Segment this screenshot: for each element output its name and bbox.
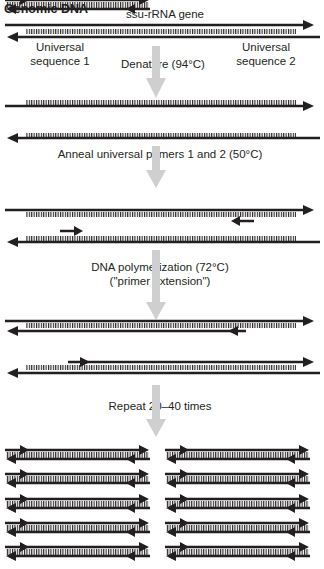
genomic-dna: [5, 20, 320, 42]
denatured-strands: [5, 100, 320, 143]
pcr-diagram: [0, 0, 324, 569]
extended-strands: [5, 316, 320, 378]
annealed-strands: [5, 205, 320, 247]
